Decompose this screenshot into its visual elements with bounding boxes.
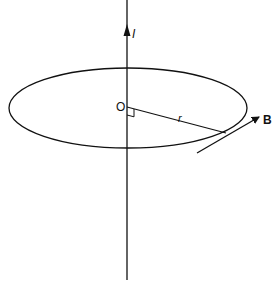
field-label: B [263,113,272,127]
origin-label: O [116,100,125,114]
field-diagram: I O r B [0,0,279,291]
current-label: I [132,27,136,41]
right-angle-icon [127,109,134,117]
field-vector-line [197,117,259,153]
field-loop [9,68,247,148]
current-arrow-icon [124,24,131,36]
radius-label: r [178,112,183,124]
radius-line [127,107,226,133]
